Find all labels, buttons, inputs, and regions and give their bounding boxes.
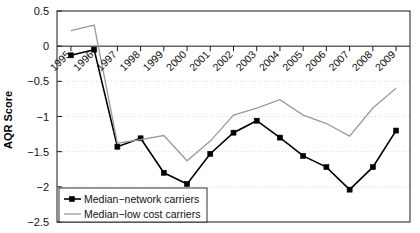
y-tick-label: −2 [36, 181, 49, 193]
legend-label: Median−network carriers [84, 193, 199, 205]
chart-legend: Median−network carriersMedian−low cost c… [59, 188, 207, 222]
data-point-marker [301, 153, 306, 158]
data-point-marker [394, 128, 399, 133]
data-point-marker [161, 170, 166, 175]
y-axis-title-text: AQR Score [2, 91, 14, 149]
legend-item-2[interactable]: Median−low cost carriers [64, 208, 200, 220]
y-tick-label: −0.5 [27, 75, 49, 87]
data-point-marker [92, 47, 97, 52]
data-point-marker [324, 165, 329, 170]
legend-marker-square [70, 197, 75, 202]
chart-container: 0.50−0.5−1−1.5−2−2.5 1995199619971998199… [0, 0, 420, 233]
data-point-marker [277, 135, 282, 140]
y-tick-label: −2.5 [27, 216, 49, 228]
data-point-marker [254, 118, 259, 123]
y-tick-label: −1 [36, 111, 49, 123]
y-tick-label: 0 [43, 40, 49, 52]
y-axis-tick-labels: 0.50−0.5−1−1.5−2−2.5 [27, 5, 49, 228]
data-point-marker [185, 182, 190, 187]
y-axis-title: AQR Score [2, 91, 14, 149]
legend-label: Median−low cost carriers [84, 208, 200, 220]
legend-item-1[interactable]: Median−network carriers [64, 193, 199, 205]
data-point-marker [347, 187, 352, 192]
y-tick-label: −1.5 [27, 146, 49, 158]
y-tick-label: 0.5 [34, 5, 49, 17]
data-point-marker [370, 165, 375, 170]
data-point-marker [208, 151, 213, 156]
aqr-score-line-chart: 0.50−0.5−1−1.5−2−2.5 1995199619971998199… [0, 0, 420, 233]
data-point-marker [115, 144, 120, 149]
data-point-marker [231, 130, 236, 135]
